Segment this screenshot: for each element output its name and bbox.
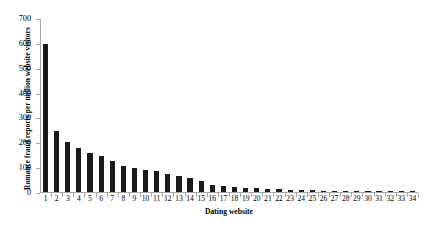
x-axis-tick-label: 32 — [386, 195, 394, 203]
x-axis-tick-label: 1 — [44, 195, 48, 203]
bar — [299, 190, 304, 192]
bar — [232, 187, 237, 192]
x-axis-tick-label: 18 — [231, 195, 239, 203]
y-axis-tick-label: 200 — [19, 139, 31, 147]
x-axis-tick-label: 30 — [364, 195, 372, 203]
x-axis-tick-label: 17 — [220, 195, 228, 203]
bar — [332, 191, 337, 192]
x-axis-tick-label: 5 — [88, 195, 92, 203]
x-axis-tick-label: 6 — [99, 195, 103, 203]
bar — [121, 166, 126, 192]
x-axis-tick-label: 29 — [353, 195, 361, 203]
bar — [254, 188, 259, 192]
x-axis-tick-label: 27 — [331, 195, 339, 203]
x-axis-tick-label: 23 — [286, 195, 294, 203]
bar — [243, 188, 248, 192]
bar — [176, 176, 181, 192]
bar — [221, 186, 226, 192]
bar — [132, 168, 137, 192]
bar — [388, 191, 393, 192]
y-axis-tick-label: 300 — [19, 114, 31, 122]
bar — [354, 191, 359, 192]
bar — [310, 190, 315, 192]
bar-series — [40, 19, 418, 192]
x-axis-tick-label: 19 — [242, 195, 250, 203]
bar — [43, 44, 48, 192]
x-axis-tick-label: 15 — [197, 195, 205, 203]
bar — [399, 191, 404, 192]
bar — [154, 171, 159, 192]
x-axis-tick-label: 25 — [309, 195, 317, 203]
x-axis-tick-label: 2 — [55, 195, 59, 203]
bar — [276, 189, 281, 192]
x-axis-tick-label: 8 — [121, 195, 125, 203]
bar — [87, 153, 92, 192]
bar-chart: Romance fraud reports per million websit… — [0, 0, 430, 236]
plot-area: 0100200300400500600700 — [40, 19, 418, 193]
x-axis-tick-labels: 1234567891011121314151617181920212223242… — [40, 195, 418, 207]
y-axis-tick-label: 700 — [19, 15, 31, 23]
x-axis-tick-label: 13 — [175, 195, 183, 203]
x-axis-tick-label: 34 — [409, 195, 417, 203]
x-axis-title: Dating website — [40, 207, 418, 216]
x-axis-tick-label: 22 — [275, 195, 283, 203]
bar — [76, 148, 81, 192]
bar — [143, 170, 148, 192]
x-axis-tick-label: 3 — [66, 195, 70, 203]
y-axis-tick-label: 0 — [27, 189, 31, 197]
x-axis-tick-label: 21 — [264, 195, 272, 203]
bar — [376, 191, 381, 192]
x-axis-tick-label: 16 — [209, 195, 217, 203]
bar — [321, 191, 326, 192]
bar — [165, 174, 170, 192]
x-axis-tick-label: 7 — [110, 195, 114, 203]
x-axis-tick-label: 33 — [398, 195, 406, 203]
x-axis-tick-label: 26 — [320, 195, 328, 203]
x-axis-tick-label: 12 — [164, 195, 172, 203]
x-axis-tick-label: 11 — [153, 195, 160, 203]
bar — [343, 191, 348, 192]
bar — [65, 142, 70, 192]
x-axis-tick-label: 14 — [186, 195, 194, 203]
x-axis-tick-label: 20 — [253, 195, 261, 203]
x-axis-tick-label: 24 — [297, 195, 305, 203]
y-axis-tick-label: 400 — [19, 89, 31, 97]
bar — [210, 185, 215, 192]
y-axis-tick: 0 — [36, 193, 40, 194]
bar — [365, 191, 370, 192]
x-axis-tick-label: 4 — [77, 195, 81, 203]
bar — [187, 178, 192, 192]
bar — [288, 190, 293, 192]
x-axis-tick-label: 9 — [133, 195, 137, 203]
bar — [99, 156, 104, 192]
bar — [265, 189, 270, 192]
x-axis-tick-label: 28 — [342, 195, 350, 203]
y-axis-tick-label: 600 — [19, 40, 31, 48]
y-axis-tick-label: 500 — [19, 65, 31, 73]
bar — [410, 191, 415, 192]
x-axis-tick-label: 31 — [375, 195, 383, 203]
y-axis-tick-label: 100 — [19, 164, 31, 172]
x-axis-tick — [418, 193, 419, 197]
bar — [54, 131, 59, 192]
bar — [199, 181, 204, 192]
bar — [110, 161, 115, 192]
x-axis-tick-label: 10 — [142, 195, 150, 203]
